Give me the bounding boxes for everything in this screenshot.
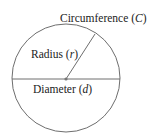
diameter-label: Diameter (d) — [33, 83, 92, 96]
radius-label: Radius (r) — [31, 48, 78, 61]
center-point — [64, 77, 67, 80]
circle-diagram: Circumference (C) Radius (r) Diameter (d… — [0, 0, 156, 137]
circumference-label: Circumference (C) — [60, 12, 147, 25]
